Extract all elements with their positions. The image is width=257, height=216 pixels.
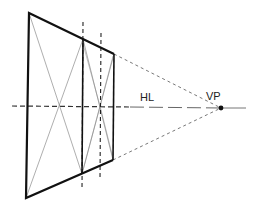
horizon-line-dashed-left <box>12 106 130 107</box>
diagonal-sub-1 <box>83 44 100 106</box>
vanishing-point-dot <box>219 106 224 111</box>
diagonal-outer-1 <box>29 13 82 174</box>
horizon-line-label: HL <box>140 91 154 103</box>
front-divider <box>82 39 83 174</box>
back-edge <box>113 54 114 160</box>
orthogonal-top-to-vp <box>114 54 221 108</box>
horizon-line-long-dash <box>130 107 221 108</box>
orthogonal-bottom-to-vp <box>113 108 221 160</box>
center-vertical-dashed-back <box>100 33 101 180</box>
diagonal-sub-4 <box>100 106 113 158</box>
diagonal-outer-2 <box>26 39 83 198</box>
vanishing-point-label: VP <box>206 90 221 102</box>
diagonal-sub-3 <box>83 106 100 170</box>
diagonal-sub-2 <box>100 56 113 106</box>
perspective-diagram: HL VP <box>0 0 257 216</box>
